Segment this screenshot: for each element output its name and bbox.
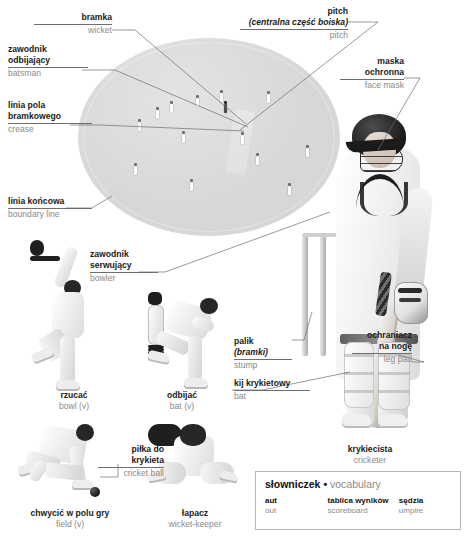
caption-field-v: chwycić w polu gry field (v) [8,508,132,530]
pad-strap [378,372,410,375]
batsman-leg-back [188,336,202,380]
field-player-batsman [241,135,244,144]
field-player-umpire [224,104,227,113]
caption-fieldv-pl: chwycić w polu gry [8,508,132,519]
callout-legpad-en: leg pad [384,354,412,364]
batsman-head [200,298,218,314]
field-highlight [78,38,340,236]
callout-stump-pl: palik [234,336,254,346]
callout-pitch-pl-sub: (centralna część boiska) [240,17,348,30]
bowler-shoe-front [31,346,56,364]
callout-batsman: zawodnik odbijający batsman [8,44,88,79]
callout-bat-en: bat [234,391,246,401]
field-player [182,134,185,143]
callout-ball-pl-2: krykieta [98,455,164,468]
caption-keeper-pl: łapacz [140,508,250,519]
vocabulary-title-separator: • [323,478,327,490]
cricketer-photo [316,96,442,432]
callout-ball-en: cricket ball [123,468,164,478]
pad-strap [344,372,374,375]
callout-crease: linia pola bramkowego crease [8,100,92,135]
callout-wicket-pl: bramka [34,12,112,25]
vocabulary-entry-scoreboard: tablica wyników scoreboard [328,496,399,516]
shoe-left [342,414,372,428]
vocabulary-entry-out: aut out [265,496,328,516]
caption-bowl-pl: rzucać [32,390,116,401]
callout-bat-pl: kij krykietowy [234,378,310,391]
callout-wicket: bramka wicket [34,12,112,36]
callout-bat: kij krykietowy bat [234,378,310,402]
caption-fieldv-en: field (v) [8,519,132,530]
callout-pitch-pl: pitch [327,6,348,16]
field-player [134,166,137,175]
callout-facemask-pl-2: ochronna [340,67,404,80]
keeper-head [180,424,206,446]
callout-face-mask: maska ochronna face mask [340,56,404,91]
vocab-scoreboard-pl: tablica wyników [328,496,399,506]
vocab-out-en: out [265,506,328,516]
callout-crease-pl-1: linia pola [8,100,45,110]
callout-boundary-pl: linia końcowa [8,196,92,209]
field-player [190,182,193,191]
caption-bowl: rzucać bowl (v) [32,390,116,412]
vocabulary-title-pl: słowniczek [265,478,320,490]
callout-bowler-en: bowler [90,273,115,283]
pad-strap [378,390,410,393]
bowler-ball-hand [30,240,44,256]
batsman-shoe-front [147,350,171,365]
field-player [306,148,309,157]
batting-glove [394,282,428,324]
cricket-ball [90,487,100,497]
callout-stump: palik (bramki) stump [234,336,292,371]
vocabulary-title-en: vocabulary [330,478,381,490]
caption-bowl-en: bowl (v) [32,401,116,412]
batsman-glove [148,292,162,305]
callout-boundary-line: linia końcowa boundary line [8,196,92,220]
caption-batv-en: bat (v) [140,401,224,412]
callout-cricket-ball: piłka do krykieta cricket ball [98,444,164,479]
callout-pitch-en: pitch [330,30,348,40]
callout-legpad-pl-2: na nogę [352,341,412,354]
vocabulary-box: słowniczek • vocabulary aut out tablica … [255,471,461,530]
caption-wicket-keeper: łapacz wicket-keeper [140,508,250,530]
stump-1 [302,236,308,356]
callout-boundary-en: boundary line [8,209,60,219]
callout-leg-pad: ochraniacz na nogę leg pad [352,330,412,365]
field-player [196,98,199,107]
fielder-head [76,424,94,441]
callout-bowler-pl-1: zawodnik [90,249,129,259]
shoe-right [378,414,408,428]
field-player [170,104,173,113]
field-player [256,156,259,165]
callout-batsman-pl-1: zawodnik [8,44,47,54]
callout-bowler: zawodnik serwujący bowler [90,249,158,284]
vocabulary-entries: aut out tablica wyników scoreboard sędzi… [265,496,451,516]
vocab-scoreboard-en: scoreboard [328,506,399,516]
callout-facemask-pl-1: maska [377,56,404,66]
field-player [138,122,141,131]
callout-legpad-pl-1: ochraniacz [367,330,412,340]
callout-bowler-pl-2: serwujący [90,260,158,273]
callout-wicket-en: wicket [88,25,112,35]
bowler-belt [30,256,60,261]
vocab-umpire-en: umpire [399,506,451,516]
jumper-v-stripe [360,182,408,216]
caption-batv-pl: odbijać [140,390,224,401]
callout-batsman-pl-2: odbijający [8,55,88,68]
fielder-leg-2 [43,462,84,481]
callout-pitch: pitch (centralna część boiska) pitch [240,6,348,41]
cricket-field-oval [78,38,340,236]
vocabulary-title: słowniczek • vocabulary [265,478,451,491]
field-player [220,93,223,102]
caption-keeper-en: wicket-keeper [140,519,250,530]
callout-ball-pl-1: piłka do [132,444,164,454]
callout-batsman-en: batsman [8,68,41,78]
callout-crease-en: crease [8,124,34,134]
caption-cricketer-en: cricketer [322,455,418,466]
vocab-out-pl: aut [265,496,328,506]
caption-bat-v: odbijać bat (v) [140,390,224,412]
batsman-photo [148,292,238,396]
field-player [267,94,270,103]
caption-cricketer-pl: krykiecista [322,444,418,455]
cricket-vocabulary-page: bramka wicket zawodnik odbijający batsma… [0,0,467,540]
